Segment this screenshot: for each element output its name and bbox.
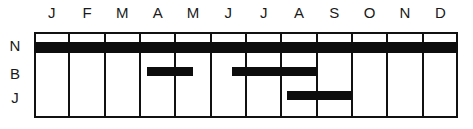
bar-b [232, 67, 317, 76]
row-label: J [2, 90, 28, 106]
month-label: S [316, 4, 352, 22]
month-label: D [422, 4, 458, 22]
month-label: O [352, 4, 388, 22]
month-label: J [34, 4, 70, 22]
month-label: J [210, 4, 246, 22]
month-label: J [246, 4, 282, 22]
month-label: N [387, 4, 423, 22]
row-label: B [2, 66, 28, 82]
month-label: F [69, 4, 105, 22]
month-label: M [175, 4, 211, 22]
month-label: A [140, 4, 176, 22]
row-label: N [2, 38, 28, 54]
month-label: A [281, 4, 317, 22]
month-label: M [104, 4, 140, 22]
bar-b [147, 67, 193, 76]
bar-n [34, 42, 458, 53]
bar-j [287, 91, 352, 100]
